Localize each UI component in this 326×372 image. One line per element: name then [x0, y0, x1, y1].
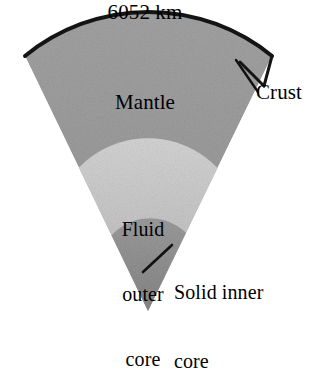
solid-inner-core-label-line1: Solid inner	[174, 281, 326, 304]
solid-inner-core-label: Solid inner core	[174, 235, 326, 372]
diameter-label: 6052 km	[0, 2, 290, 23]
crust-label: Crust	[256, 82, 302, 103]
mantle-label: Mantle	[0, 92, 290, 113]
solid-inner-core-label-line2: core	[174, 350, 326, 372]
